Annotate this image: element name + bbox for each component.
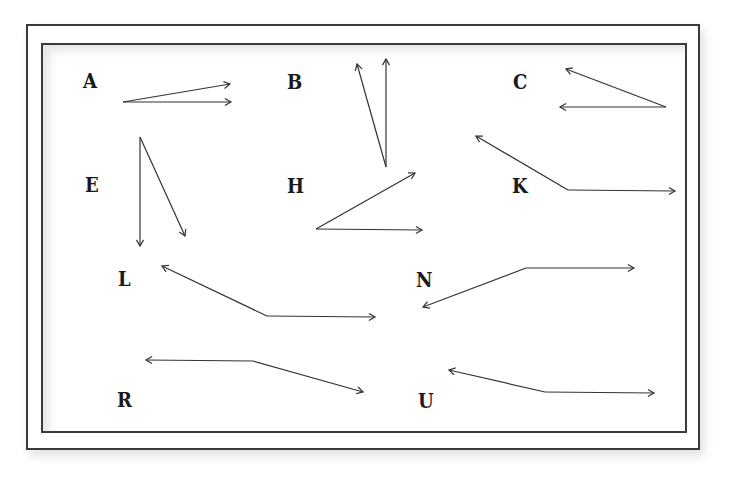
figure-label-a: A	[83, 71, 97, 91]
figure-label-l: L	[118, 269, 131, 289]
figure-label-u: U	[418, 391, 434, 411]
figure-label-r: R	[117, 390, 132, 410]
inner-frame	[41, 43, 687, 433]
figure-label-h: H	[287, 176, 304, 196]
figure-label-c: C	[513, 72, 527, 92]
figure-label-n: N	[416, 270, 432, 290]
figure-label-e: E	[85, 175, 99, 195]
figure-label-b: B	[287, 72, 302, 92]
figure-label-k: K	[512, 176, 528, 196]
